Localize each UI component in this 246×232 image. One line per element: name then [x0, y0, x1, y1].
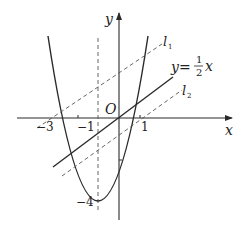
y-tick-label-neg4: −4: [76, 195, 94, 209]
line-eq-numerator: 1: [196, 54, 202, 65]
x-tick-label-neg3: −3: [36, 120, 54, 134]
x-tick-label-neg1: −1: [77, 120, 95, 134]
function-diagram: y x O −3 −1 1 −4 l 1 l 2 y= 1 2 x: [0, 0, 246, 232]
l1-subscript: 1: [168, 43, 172, 51]
x-tick-label-1: 1: [141, 120, 149, 134]
x-axis-label: x: [225, 122, 233, 138]
l2-subscript: 2: [187, 92, 191, 100]
origin-label: O: [105, 101, 117, 117]
line-eq-prefix: y=: [170, 59, 191, 75]
line-eq-denominator: 2: [196, 67, 202, 78]
l2-label: l: [182, 83, 186, 98]
l1-label: l: [163, 34, 167, 49]
y-axis-label: y: [104, 11, 114, 27]
line-half-x: [53, 77, 173, 167]
line-eq-var: x: [205, 58, 213, 74]
